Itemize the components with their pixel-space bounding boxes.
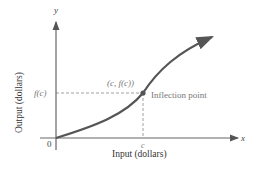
inflection-point-marker (140, 90, 145, 95)
point-label: (c, f(c)) (107, 78, 134, 88)
y-axis-title: Output (dollars) (14, 72, 25, 133)
x-axis-letter: x (240, 133, 245, 143)
x-axis-title: Input (dollars) (112, 149, 167, 160)
inflection-annotation: Inflection point (151, 90, 207, 100)
y-tick-fc: f(c) (34, 88, 47, 98)
y-axis-letter: y (53, 5, 58, 15)
origin-label: 0 (47, 139, 52, 149)
function-curve (56, 37, 212, 138)
inflection-diagram: y x 0 c f(c) (c, f(c)) Inflection point … (0, 0, 260, 174)
